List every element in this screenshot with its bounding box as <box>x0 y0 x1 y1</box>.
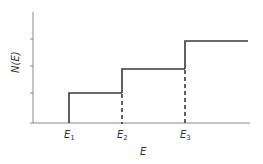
x-tick-label-e3: E3 <box>180 129 191 142</box>
x-axis-label: E <box>140 146 147 157</box>
step-level-1 <box>69 93 122 123</box>
x-tick-label-e1: E1 <box>64 129 75 142</box>
step-level-2 <box>122 69 185 93</box>
x-tick-label-e2: E2 <box>117 129 128 142</box>
y-axis-label: N(E) <box>10 51 21 73</box>
step-chart: E1 E2 E3 E N(E) <box>0 0 263 164</box>
step-level-3 <box>185 41 248 69</box>
